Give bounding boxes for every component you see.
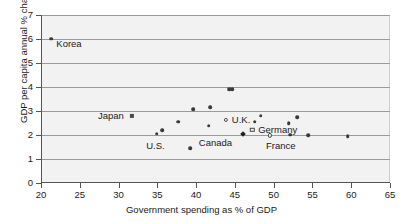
gridline-y-7 xyxy=(42,15,390,16)
point-label-japan: Japan xyxy=(98,111,124,121)
scatter-chart: GDP per capita annual % change 01234567 … xyxy=(0,0,403,224)
data-point xyxy=(253,120,257,124)
x-tick-30 xyxy=(119,183,120,188)
y-tick-label-2: 2 xyxy=(0,130,33,140)
x-tick-50 xyxy=(274,183,275,188)
plot-area: KoreaJapanU.S.U.K.CanadaGermanyFrance xyxy=(41,15,390,183)
x-tick-label-65: 65 xyxy=(385,190,396,200)
x-tick-label-20: 20 xyxy=(36,190,47,200)
data-point xyxy=(177,120,181,124)
data-point xyxy=(306,134,310,138)
gridline-y-1 xyxy=(42,159,390,160)
point-label-france: France xyxy=(266,141,296,151)
point-label-germany: Germany xyxy=(258,125,297,135)
y-tick-label-1: 1 xyxy=(0,154,33,164)
x-tick-label-55: 55 xyxy=(307,190,318,200)
y-tick-label-5: 5 xyxy=(0,58,33,68)
x-tick-label-40: 40 xyxy=(191,190,202,200)
x-tick-20 xyxy=(41,183,42,188)
x-tick-label-30: 30 xyxy=(113,190,124,200)
x-tick-label-25: 25 xyxy=(74,190,85,200)
point-label-korea: Korea xyxy=(56,39,81,49)
x-tick-label-45: 45 xyxy=(230,190,241,200)
x-tick-40 xyxy=(196,183,197,188)
gridline-y-5 xyxy=(42,63,390,64)
data-point xyxy=(207,124,211,128)
data-point-u-k xyxy=(224,118,228,122)
gridline-y-2 xyxy=(42,135,390,136)
data-point xyxy=(259,114,263,118)
gridline-y-6 xyxy=(42,39,390,40)
plot-frame-right xyxy=(389,15,390,182)
point-label-u-s: U.S. xyxy=(146,141,164,151)
x-tick-35 xyxy=(157,183,158,188)
y-tick-label-6: 6 xyxy=(0,34,33,44)
data-point xyxy=(155,132,159,136)
x-tick-60 xyxy=(351,183,352,188)
y-tick-label-7: 7 xyxy=(0,10,33,20)
point-label-u-k: U.K. xyxy=(232,115,250,125)
data-point xyxy=(188,146,192,150)
x-tick-25 xyxy=(80,183,81,188)
x-axis-title: Government spending as % of GDP xyxy=(0,205,403,215)
data-point-korea xyxy=(50,37,54,41)
y-tick-label-4: 4 xyxy=(0,82,33,92)
x-tick-65 xyxy=(390,183,391,188)
y-tick-label-0: 0 xyxy=(0,178,33,188)
y-tick-label-3: 3 xyxy=(0,106,33,116)
x-tick-label-35: 35 xyxy=(152,190,163,200)
x-tick-label-60: 60 xyxy=(346,190,357,200)
data-point-japan xyxy=(130,114,134,118)
data-point xyxy=(346,134,350,138)
point-label-canada: Canada xyxy=(199,138,232,148)
data-point-germany xyxy=(250,128,254,132)
gridline-y-4 xyxy=(42,87,390,88)
x-tick-45 xyxy=(235,183,236,188)
data-point xyxy=(191,108,195,112)
data-point-u-s xyxy=(160,129,164,133)
data-point xyxy=(230,88,234,92)
x-tick-55 xyxy=(312,183,313,188)
gridline-y-3 xyxy=(42,111,390,112)
x-tick-label-50: 50 xyxy=(268,190,279,200)
data-point-canada xyxy=(240,131,246,137)
data-point xyxy=(208,105,212,109)
data-point xyxy=(295,116,299,120)
